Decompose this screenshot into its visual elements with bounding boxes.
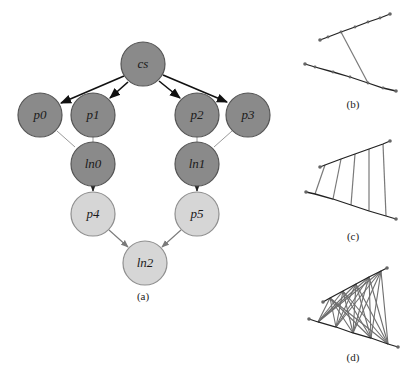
panel-d-polylines: (d) [307, 266, 400, 364]
node-p5: p5 [175, 192, 219, 236]
svg-text:p0: p0 [33, 107, 48, 122]
caption-c: (c) [347, 230, 360, 243]
svg-text:ln0: ln0 [85, 156, 102, 171]
svg-text:p5: p5 [190, 206, 205, 221]
vertices [303, 12, 398, 93]
node-p0: p0 [18, 93, 62, 137]
edge-p5-ln2 [162, 230, 181, 247]
edge-p4-ln2 [109, 230, 128, 247]
svg-text:p4: p4 [86, 206, 101, 221]
svg-text:p3: p3 [241, 107, 256, 122]
node-ln0: ln0 [71, 142, 115, 186]
edge-p3-ln1 [214, 131, 232, 147]
caption-a: (a) [137, 290, 150, 303]
edge-cs-p1 [110, 82, 128, 98]
caption-b: (b) [347, 98, 360, 111]
svg-text:cs: cs [138, 56, 149, 71]
figure: cs p0 p1 p2 p3 ln0 ln1 p4 [0, 0, 416, 369]
node-ln2: ln2 [123, 241, 167, 285]
node-p4: p4 [71, 192, 115, 236]
node-p3: p3 [226, 93, 270, 137]
node-ln1: ln1 [175, 142, 219, 186]
panel-b-polylines: (b) [303, 12, 398, 111]
node-p2: p2 [175, 93, 219, 137]
node-cs: cs [121, 42, 165, 86]
svg-text:ln2: ln2 [137, 255, 154, 270]
svg-text:p1: p1 [86, 107, 100, 122]
panel-a-graph: cs p0 p1 p2 p3 ln0 ln1 p4 [18, 42, 270, 303]
svg-text:ln1: ln1 [189, 156, 206, 171]
edge-cs-p2 [159, 81, 180, 98]
panel-c-polylines: (c) [304, 139, 398, 243]
svg-text:p2: p2 [190, 107, 205, 122]
node-p1: p1 [71, 93, 115, 137]
caption-d: (d) [347, 351, 360, 364]
top-polyline [320, 141, 390, 167]
bottom-polyline [306, 192, 396, 219]
edge-p0-ln0 [57, 131, 75, 147]
